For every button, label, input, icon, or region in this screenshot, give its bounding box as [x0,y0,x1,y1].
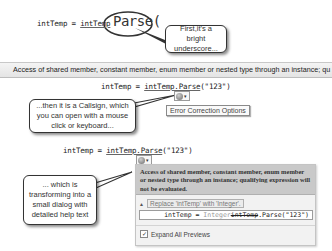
error-correction-dialog: Access of shared member, constant member… [135,164,316,246]
callout-text: ...then it is a Callsign, which you can … [34,101,131,131]
code-preview: intTemp = IntegerintTemp.Parse("123") [139,210,313,220]
code-text: intTemp = [63,146,106,155]
underlined-identifier[interactable]: intTemp [80,19,110,28]
error-message: Access of shared member, constant member… [13,65,330,74]
magnified-code: Parse( [113,13,161,29]
chevron-down-icon: ▾ [184,94,187,99]
preview-text: .Parse("123") [258,211,309,219]
callout-text: First,it's a bright underscore... [170,24,222,54]
expand-all-previews[interactable]: ✓ Expand All Previews [140,230,210,238]
callout-dialog: ... which is transforming into a small d… [23,175,97,225]
code-text: ("123") [200,82,230,91]
error-list-bar: Access of shared member, constant member… [0,62,332,78]
collapse-icon[interactable]: ▲ [139,201,147,207]
fix-row: ▲ Replace 'intTemp' with 'Integer'. [139,199,244,208]
error-correction-icon [176,93,183,100]
code-line-1: intTemp = intTemp [37,19,110,28]
code-text: intTemp = [101,82,144,91]
error-description: Access of shared member, constant member… [136,165,315,195]
leader-arrow-1 [135,28,166,44]
callout-text: ... which is transforming into a small d… [28,180,92,221]
preview-removed: intTemp [231,211,258,219]
fix-link[interactable]: Replace 'intTemp' with 'Integer'. [147,199,244,208]
callout-underscore: First,it's a bright underscore... [165,25,227,53]
code-text: ("123") [162,146,192,155]
error-correction-icon [138,157,145,164]
code-line-2: intTemp = intTemp.Parse("123") [101,82,230,91]
checkbox-label: Expand All Previews [151,231,210,238]
code-line-3: intTemp = intTemp.Parse("123") [63,146,192,155]
code-text: intTemp = [37,19,80,28]
underlined-expression[interactable]: intTemp.Parse [144,82,200,91]
preview-text: intTemp = [164,211,203,219]
tooltip: Error Correction Options [166,105,250,116]
underlined-expression[interactable]: intTemp.Parse [106,146,162,155]
smart-tag-button[interactable]: ▾ [174,91,190,101]
callout-callsign: ...then it is a Callsign, which you can … [29,99,136,133]
divider [136,225,315,226]
preview-added: Integer [203,211,230,219]
checkbox[interactable]: ✓ [140,230,148,238]
leader-arrow-3 [95,172,132,188]
chevron-down-icon: ▾ [146,158,149,163]
